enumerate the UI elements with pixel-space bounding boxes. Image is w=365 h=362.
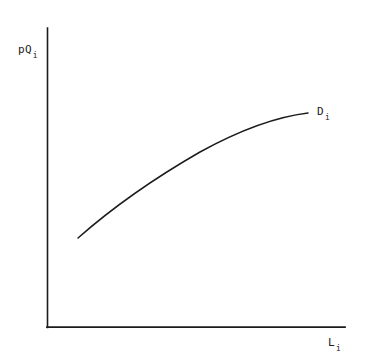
curve-label-subscript: i: [325, 113, 330, 122]
curve-label: Di: [317, 106, 329, 120]
figure-canvas: pQi Li Di: [0, 0, 365, 362]
y-axis-label-subscript: i: [33, 51, 38, 60]
x-axis-label: Li: [328, 337, 340, 351]
x-axis-label-subscript: i: [336, 344, 341, 353]
x-axis-label-main: L: [328, 336, 335, 349]
plot-area: [0, 0, 365, 362]
y-axis-label-main: pQ: [18, 43, 32, 56]
y-axis-label: pQi: [18, 44, 37, 58]
curve-label-main: D: [317, 105, 324, 118]
demand-curve: [78, 113, 308, 238]
